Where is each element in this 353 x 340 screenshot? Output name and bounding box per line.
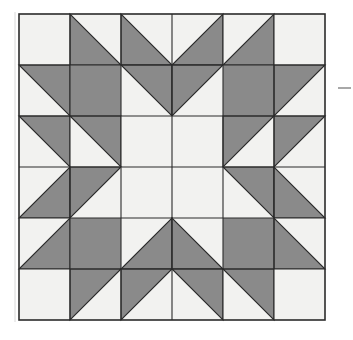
quilt-cell-r2-c2 [70, 65, 121, 116]
quilt-cell-r6-c6 [274, 269, 325, 320]
quilt-block-figure [0, 0, 353, 340]
quilt-cell-r4-c3 [121, 167, 172, 218]
quilt-cell-r1-c1 [19, 14, 70, 65]
quilt-cell-r2-c5 [223, 65, 274, 116]
quilt-cell-r5-c2 [70, 218, 121, 269]
quilt-cell-r3-c3 [121, 116, 172, 167]
quilt-cell-r5-c5 [223, 218, 274, 269]
quilt-cell-r1-c6 [274, 14, 325, 65]
quilt-cell-r4-c4 [172, 167, 223, 218]
quilt-cell-r3-c4 [172, 116, 223, 167]
quilt-block-svg [0, 0, 353, 340]
quilt-cell-r6-c1 [19, 269, 70, 320]
